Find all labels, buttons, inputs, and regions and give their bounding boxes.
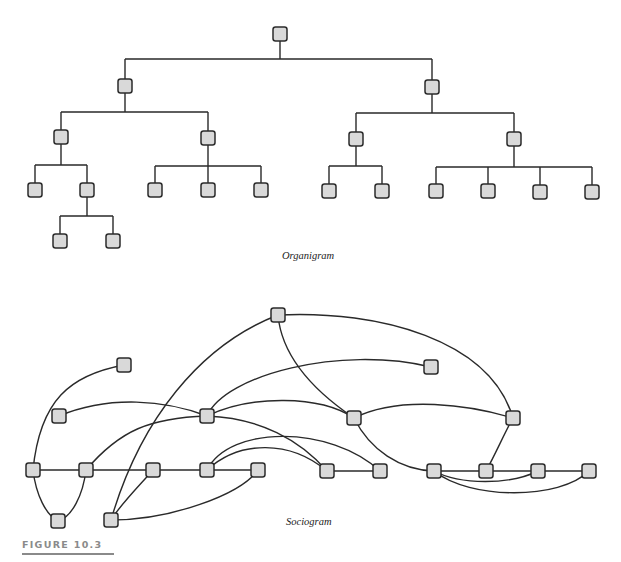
soc-node-S5: [200, 409, 214, 423]
soc-edge-S4-S5: [59, 402, 207, 416]
soc-edge-S5-S6: [207, 400, 354, 418]
org-node-L3b: [80, 183, 94, 197]
org-node-L2a: [54, 130, 68, 144]
org-connector: [155, 138, 261, 190]
org-connector: [61, 86, 208, 138]
org-node-L2b: [201, 131, 215, 145]
org-node-L3f: [322, 184, 336, 198]
org-node-L3j: [533, 185, 547, 199]
org-connector: [329, 139, 382, 191]
org-node-L3i: [481, 184, 495, 198]
figure-label: FIGURE 10.3: [22, 539, 102, 550]
soc-node-S13: [320, 464, 334, 478]
soc-node-S18: [582, 464, 596, 478]
organigram-nodes: [28, 27, 599, 248]
org-node-L1b: [425, 80, 439, 94]
soc-edge-S10-S20: [111, 470, 153, 520]
soc-node-S9: [79, 463, 93, 477]
org-connector: [35, 137, 87, 190]
sociogram-diagram: [26, 308, 596, 528]
soc-node-S6: [347, 411, 361, 425]
soc-node-S12: [251, 463, 265, 477]
soc-edge-S5-S3: [207, 360, 431, 416]
figure-label-underline: [22, 553, 114, 555]
soc-node-S14: [373, 464, 387, 478]
soc-node-S7: [506, 411, 520, 425]
soc-node-S17: [531, 464, 545, 478]
sociogram-nodes: [26, 308, 596, 528]
soc-node-S3: [424, 360, 438, 374]
soc-node-S2: [117, 358, 131, 372]
org-node-L3d: [201, 183, 215, 197]
org-node-L2c: [349, 132, 363, 146]
figure-canvas: [0, 0, 621, 562]
org-node-L3k: [585, 185, 599, 199]
org-node-L3h: [429, 184, 443, 198]
soc-node-S11: [200, 463, 214, 477]
org-node-L1a: [118, 79, 132, 93]
soc-edge-S12-S20: [111, 470, 258, 520]
soc-edge-S9-S5: [86, 416, 207, 470]
organigram-diagram: [28, 27, 599, 248]
soc-node-S16: [479, 464, 493, 478]
org-connector: [436, 139, 592, 192]
org-connector: [356, 87, 514, 139]
soc-node-S19: [51, 514, 65, 528]
org-node-L3a: [28, 183, 42, 197]
org-node-root: [273, 27, 287, 41]
soc-edge-S7-S16: [486, 418, 513, 471]
org-node-L3g: [375, 184, 389, 198]
org-node-L2d: [507, 132, 521, 146]
soc-edge-S6-S7: [354, 404, 513, 418]
soc-node-S10: [146, 463, 160, 477]
soc-edge-S1-S6: [278, 315, 354, 418]
organigram-caption: Organigram: [282, 250, 334, 261]
soc-node-S20: [104, 513, 118, 527]
soc-edge-S15-S18: [434, 471, 589, 493]
org-node-L3c: [148, 183, 162, 197]
soc-node-S1: [271, 308, 285, 322]
org-connector: [125, 34, 432, 87]
org-node-L3e: [254, 183, 268, 197]
soc-edge-S6-S15: [354, 418, 434, 471]
sociogram-caption: Sociogram: [286, 516, 332, 527]
soc-edge-S8-S2: [33, 365, 124, 470]
org-node-L4a: [53, 234, 67, 248]
soc-node-S4: [52, 409, 66, 423]
soc-edge-S5-S13: [207, 416, 327, 471]
soc-node-S8: [26, 463, 40, 477]
soc-node-S15: [427, 464, 441, 478]
org-node-L4b: [106, 234, 120, 248]
